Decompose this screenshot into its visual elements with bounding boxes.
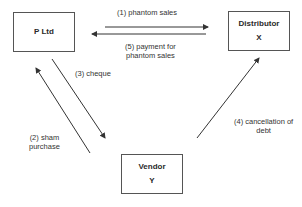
label-payment-for-phantom-sales: (5) payment for phantom sales — [125, 43, 176, 60]
node-distributor-sub: X — [256, 33, 261, 43]
label-cheque-text: (3) cheque — [75, 69, 111, 78]
node-vendor: Vendor Y — [121, 154, 183, 194]
node-vendor-sub: Y — [149, 176, 154, 186]
label-sham-line2: purchase — [29, 143, 60, 152]
node-distributor-title: Distributor — [239, 19, 280, 29]
node-vendor-title: Vendor — [138, 162, 165, 172]
label-payment-line2: phantom sales — [125, 52, 176, 61]
node-distributor: Distributor X — [228, 11, 290, 51]
node-p-ltd: P Ltd — [13, 12, 75, 52]
label-phantom-sales: (1) phantom sales — [117, 9, 177, 18]
label-cheque: (3) cheque — [75, 70, 111, 79]
label-phantom-sales-text: (1) phantom sales — [117, 8, 177, 17]
label-cancellation-line2: debt — [234, 127, 293, 136]
label-sham-purchase: (2) sham purchase — [29, 134, 60, 151]
node-p-ltd-title: P Ltd — [34, 27, 54, 37]
label-cancellation-of-debt: (4) cancellation of debt — [234, 118, 293, 135]
